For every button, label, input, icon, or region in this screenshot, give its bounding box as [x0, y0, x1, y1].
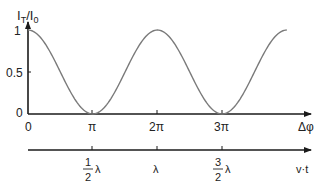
- x-axis-label: Δφ: [298, 120, 314, 134]
- svg-text:3: 3: [215, 156, 221, 168]
- intensity-curve: [28, 30, 287, 114]
- svg-text:IT/I0: IT/I0: [17, 8, 38, 25]
- y-tick-label-0: 0: [16, 106, 23, 120]
- sec-tick-label-three-half: 3 2 λ: [213, 156, 231, 183]
- x-tick-label-2pi: 2π: [149, 120, 164, 134]
- svg-text:2: 2: [85, 171, 91, 183]
- svg-text:1: 1: [85, 156, 91, 168]
- svg-text:λ: λ: [225, 163, 231, 175]
- interference-chart: IT/I0 1 0.5 0 0 π 2π 3π Δφ 1 2 λ λ 3 2 λ…: [0, 0, 332, 193]
- svg-text:2: 2: [215, 171, 221, 183]
- y-axis-label: IT/I0: [17, 8, 38, 25]
- x-tick-label-0: 0: [25, 120, 32, 134]
- y-tick-label-05: 0.5: [6, 66, 23, 80]
- x-tick-label-3pi: 3π: [214, 120, 229, 134]
- sec-tick-label-one: λ: [153, 163, 159, 175]
- svg-text:λ: λ: [95, 163, 101, 175]
- secondary-x-axis-label: v·t: [296, 163, 308, 175]
- sec-tick-label-half: 1 2 λ: [83, 156, 101, 183]
- y-tick-label-1: 1: [14, 24, 21, 38]
- x-tick-label-pi: π: [88, 120, 96, 134]
